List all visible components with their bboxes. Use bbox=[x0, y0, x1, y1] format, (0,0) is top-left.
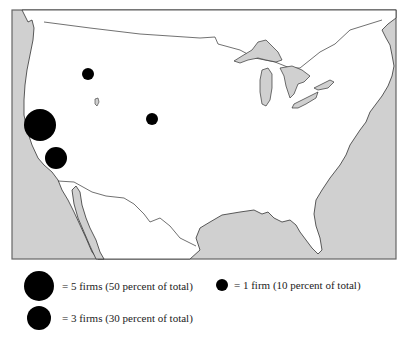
legend-dot-medium-icon bbox=[27, 306, 51, 330]
legend-item-1-firm: = 1 firm (10 percent of total) bbox=[216, 279, 361, 291]
legend-item-5-firms: = 5 firms (50 percent of total) bbox=[24, 271, 193, 301]
legend-dot-large-icon bbox=[24, 271, 54, 301]
legend-dot-small-icon bbox=[216, 279, 228, 291]
legend-label: = 3 firms (30 percent of total) bbox=[62, 312, 193, 324]
marker-3-firms bbox=[45, 147, 67, 169]
legend-item-3-firms: = 3 firms (30 percent of total) bbox=[27, 306, 193, 330]
us-map bbox=[0, 0, 405, 265]
marker-5-firms bbox=[24, 109, 56, 141]
marker-1-firm-central bbox=[146, 113, 158, 125]
legend-label: = 5 firms (50 percent of total) bbox=[62, 280, 193, 292]
marker-1-firm-north bbox=[82, 68, 94, 80]
legend-label: = 1 firm (10 percent of total) bbox=[234, 279, 361, 291]
lake-michigan bbox=[260, 68, 272, 106]
